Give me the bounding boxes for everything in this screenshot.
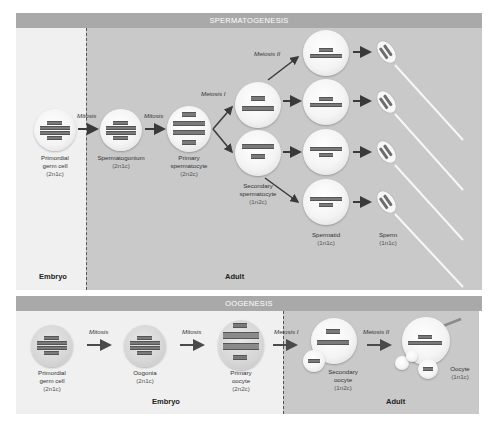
oo-stage-label-oocyte: Oocyte (1n1c) bbox=[440, 365, 480, 381]
oo-step-label-mitosis-1: Mitosis bbox=[89, 328, 108, 335]
oo-cell-primary-oocyte bbox=[218, 320, 264, 370]
oo-stage-label-primary-oocyte: Primary oocyte (2n2c) bbox=[211, 369, 271, 393]
oo-polar-body-2b bbox=[406, 350, 418, 362]
oo-polar-body-2c bbox=[418, 359, 438, 379]
oo-cell-primordial-germ-cell bbox=[31, 325, 73, 367]
oo-step-label-meiosis-1: Meiosis I bbox=[274, 328, 298, 335]
oo-cell-oogonia bbox=[124, 325, 166, 367]
oo-stage-label-oogonia: Oogonia (2n1c) bbox=[115, 369, 175, 385]
oo-stage-label-secondary-oocyte: Secondary oocyte (1n2c) bbox=[318, 368, 368, 392]
oo-step-label-meiosis-2: Meiosis II bbox=[363, 328, 389, 335]
oo-stage-label-primordial-germ-cell: Primordial germ cell (2n1c) bbox=[22, 369, 82, 393]
oo-step-label-mitosis-2: Mitosis bbox=[182, 328, 201, 335]
